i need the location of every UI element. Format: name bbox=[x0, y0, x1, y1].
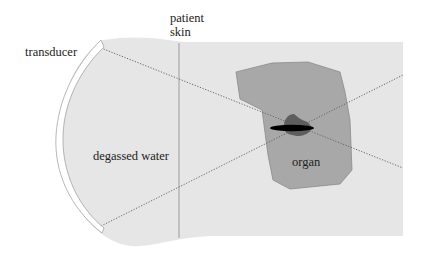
transducer-label: transducer bbox=[25, 45, 78, 59]
ultrasound-diagram: transducer patient skin degassed water o… bbox=[0, 0, 422, 258]
degassed-water-label: degassed water bbox=[93, 149, 170, 163]
patient-skin-label-line2: skin bbox=[170, 25, 192, 39]
patient-skin-label-line1: patient bbox=[170, 11, 205, 25]
body-region bbox=[59, 37, 403, 246]
organ-label: organ bbox=[292, 155, 321, 169]
focal-spot bbox=[270, 125, 314, 131]
